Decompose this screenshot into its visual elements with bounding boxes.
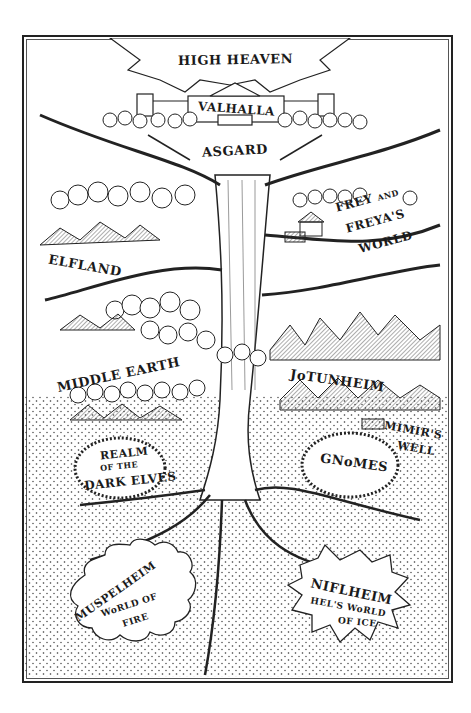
mimirs-well <box>362 419 384 429</box>
label-high-heaven: HIGH HEAVEN <box>178 51 293 68</box>
jotunheim-mountains <box>270 312 440 410</box>
